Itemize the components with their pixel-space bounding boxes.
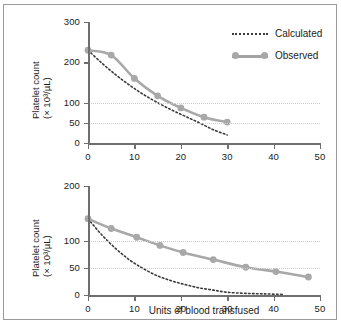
y-tick-label-0: 0 [46, 137, 80, 148]
x-tick-50 [320, 297, 321, 302]
chart-legend: Calculated Observed [232, 28, 332, 64]
gridline-y-50 [88, 268, 320, 269]
legend-solid-line-icon [232, 51, 268, 60]
series-observed [88, 50, 227, 122]
y-tick-200 [84, 186, 89, 187]
y-axis-line [88, 22, 90, 144]
figure-container: Platelet count (× 10³/µL) Calculated Obs… [0, 0, 341, 323]
y-tick-label-200: 200 [46, 180, 80, 191]
legend-marker-right [261, 52, 268, 59]
legend-marker-left [232, 52, 239, 59]
x-tick-label-40: 40 [259, 151, 289, 162]
x-tick-label-20: 20 [166, 151, 196, 162]
x-axis-line [88, 295, 321, 297]
y-tick-label-100: 100 [46, 97, 80, 108]
y-tick-100 [84, 103, 89, 104]
x-tick-30 [227, 145, 228, 150]
x-tick-label-0: 0 [73, 303, 103, 314]
y-axis-label-line1-bottom: Platelet count [30, 219, 41, 277]
legend-item-observed: Observed [232, 50, 318, 61]
x-tick-label-50: 50 [305, 151, 335, 162]
x-tick-40 [274, 297, 275, 302]
x-tick-10 [134, 297, 135, 302]
x-tick-40 [274, 145, 275, 150]
x-tick-label-0: 0 [73, 151, 103, 162]
x-tick-label-20: 20 [166, 303, 196, 314]
data-point-observed [273, 268, 280, 275]
x-tick-50 [320, 145, 321, 150]
x-tick-10 [134, 145, 135, 150]
legend-label-calculated: Calculated [275, 28, 322, 39]
legend-item-calculated: Calculated [232, 28, 322, 39]
data-point-observed [305, 274, 312, 281]
y-tick-50 [84, 123, 89, 124]
x-tick-label-10: 10 [119, 303, 149, 314]
x-tick-label-30: 30 [212, 151, 242, 162]
x-tick-0 [88, 145, 89, 150]
x-tick-0 [88, 297, 89, 302]
data-point-observed [177, 105, 184, 112]
y-tick-label-0: 0 [46, 289, 80, 300]
x-tick-20 [181, 145, 182, 150]
data-point-observed [201, 114, 208, 121]
y-tick-label-50: 50 [46, 262, 80, 273]
data-point-observed [108, 52, 115, 59]
y-tick-200 [84, 62, 89, 63]
legend-dotted-line-icon [232, 33, 268, 35]
y-tick-50 [84, 268, 89, 269]
data-point-observed [180, 249, 187, 256]
y-axis-label-line1-top: Platelet count [30, 61, 41, 119]
data-point-observed [108, 225, 115, 232]
data-point-observed [131, 75, 138, 82]
y-tick-label-300: 300 [46, 16, 80, 27]
y-tick-label-50: 50 [46, 117, 80, 128]
y-tick-label-200: 200 [46, 56, 80, 67]
x-tick-label-10: 10 [119, 151, 149, 162]
data-point-observed [154, 92, 161, 99]
x-tick-label-30: 30 [212, 303, 242, 314]
legend-label-observed: Observed [275, 50, 318, 61]
x-tick-30 [227, 297, 228, 302]
y-tick-300 [84, 22, 89, 23]
data-point-observed [210, 256, 217, 263]
x-tick-label-40: 40 [259, 303, 289, 314]
x-tick-label-50: 50 [305, 303, 335, 314]
x-tick-20 [181, 297, 182, 302]
x-axis-line [88, 143, 321, 145]
gridline-y-100 [88, 241, 320, 242]
y-tick-label-100: 100 [46, 235, 80, 246]
y-tick-100 [84, 241, 89, 242]
gridline-y-100 [88, 103, 320, 104]
data-point-observed [157, 242, 164, 249]
gridline-y-50 [88, 123, 320, 124]
